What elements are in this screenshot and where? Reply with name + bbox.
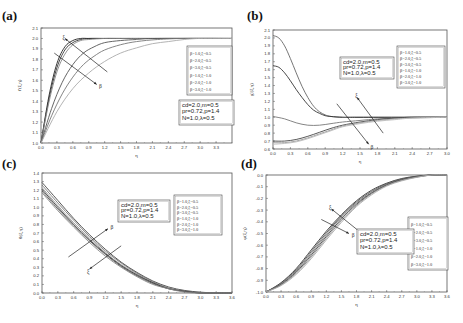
y-tick-label: 1.6	[32, 78, 38, 83]
arrow-label: ξ	[329, 204, 332, 211]
y-tick-label: 1.8	[264, 51, 270, 56]
x-tick-label: 1.2	[340, 151, 346, 156]
x-axis-label: η	[359, 159, 362, 164]
y-tick-label: 0.2	[33, 273, 39, 278]
y-tick-label: 1.6	[264, 67, 270, 72]
y-tick-label: 2.1	[264, 28, 270, 33]
x-tick-label: 0.3	[287, 151, 293, 156]
x-tick-label: 2.7	[399, 294, 405, 299]
y-tick-label: 1.1	[33, 196, 39, 201]
x-tick-label: 0.3	[278, 294, 284, 299]
y-tick-label: 2.0	[264, 35, 270, 40]
x-tick-label: 2.7	[181, 145, 187, 150]
x-tick-label: 2.1	[150, 295, 156, 300]
y-tick-label: 0.4	[33, 256, 39, 261]
y-tick-label: 1.1	[32, 130, 38, 135]
y-tick-label: 1.4	[32, 99, 38, 104]
x-tick-label: 2.1	[392, 151, 398, 156]
x-tick-label: 0.6	[293, 294, 299, 299]
y-tick-label: -0.8	[256, 266, 264, 271]
x-tick-label: 0.3	[54, 145, 60, 150]
panel-label: (d)	[241, 156, 257, 171]
y-axis-label: θ(ξ,η)	[18, 227, 24, 239]
x-tick-label: 0.0	[270, 151, 276, 156]
y-tick-label: 0.6	[264, 147, 270, 152]
x-axis-label: η	[135, 153, 138, 158]
x-tick-label: 1.5	[118, 295, 124, 300]
x-tick-label: 0.9	[322, 151, 328, 156]
y-axis-label: g'(ξ,η)	[249, 83, 255, 96]
x-tick-label: 0.6	[305, 151, 311, 156]
y-tick-label: -0.3	[256, 208, 264, 213]
x-tick-label: 1.5	[357, 151, 363, 156]
y-tick-label: 0.0	[257, 173, 263, 178]
y-tick-label: 0.8	[264, 131, 270, 136]
trend-arrow	[357, 97, 383, 133]
figure: (a)0.00.30.60.91.21.51.82.12.42.73.03.31…	[0, 0, 463, 323]
y-tick-label: 1.7	[32, 67, 38, 72]
y-tick-label: 0.8	[33, 222, 39, 227]
x-tick-label: 1.8	[354, 294, 360, 299]
x-tick-label: 0.6	[71, 295, 77, 300]
parameter-text: N=1.0,λ=0.5	[182, 115, 215, 121]
arrow-label: β	[110, 224, 113, 230]
x-tick-label: 2.4	[409, 151, 415, 156]
parameter-text: cd=2.0,m=0.5	[182, 102, 219, 108]
x-tick-label: 0.9	[308, 294, 314, 299]
x-tick-label: 3.0	[414, 294, 420, 299]
y-tick-label: 1.0	[32, 141, 38, 146]
y-tick-label: 0.7	[264, 139, 270, 144]
y-tick-label: -1.0	[256, 290, 264, 295]
x-tick-label: 0.3	[55, 295, 61, 300]
y-tick-label: 0.7	[33, 231, 39, 236]
chart-panel-a: (a)0.00.30.60.91.21.51.82.12.42.73.03.31…	[2, 8, 234, 158]
x-tick-label: 0.9	[86, 145, 92, 150]
x-tick-label: 3.0	[197, 145, 203, 150]
x-tick-label: 1.5	[339, 294, 345, 299]
y-tick-label: 2.1	[32, 26, 38, 31]
y-tick-label: 1.2	[264, 99, 270, 104]
y-tick-label: -0.4	[256, 219, 264, 224]
x-tick-label: 0.0	[38, 145, 44, 150]
x-tick-label: 0.9	[87, 295, 93, 300]
y-tick-label: 1.4	[264, 83, 270, 88]
y-tick-label: 1.9	[32, 46, 38, 51]
chart-panel-c: (c)0.00.30.60.91.21.51.82.12.42.73.03.33…	[2, 156, 236, 308]
trend-arrow	[337, 104, 369, 144]
arrow-label: β	[352, 232, 355, 238]
panel-label: (a)	[2, 8, 17, 23]
y-tick-label: 1.5	[264, 75, 270, 80]
parameter-text: cd=2.0,m=0.5	[360, 231, 397, 237]
y-tick-label: 1.1	[264, 107, 270, 112]
x-tick-label: 3.6	[229, 295, 235, 300]
x-tick-label: 3.3	[213, 145, 219, 150]
x-tick-label: 3.3	[429, 294, 435, 299]
y-tick-label: 0.9	[264, 123, 270, 128]
x-tick-label: 1.8	[134, 295, 140, 300]
y-tick-label: 1.7	[264, 59, 270, 64]
y-tick-label: 0.0	[33, 291, 39, 296]
y-tick-label: 1.3	[264, 91, 270, 96]
y-tick-label: -0.7	[256, 254, 264, 259]
parameter-text: pr=0.72,p=1.4	[182, 108, 220, 114]
y-tick-label: 0.6	[33, 239, 39, 244]
x-tick-label: 0.0	[263, 294, 269, 299]
y-tick-label: -0.1	[256, 184, 264, 189]
x-tick-label: 3.3	[213, 295, 219, 300]
chart-panel-d: (d)0.00.30.60.91.21.51.82.12.42.73.03.33…	[241, 156, 451, 307]
y-tick-label: 2.0	[32, 36, 38, 41]
y-tick-label: 0.1	[33, 282, 39, 287]
x-tick-label: 1.8	[134, 145, 140, 150]
x-tick-label: 2.4	[166, 295, 172, 300]
x-tick-label: 1.8	[374, 151, 380, 156]
x-tick-label: 3.0	[444, 151, 450, 156]
x-tick-label: 2.4	[165, 145, 171, 150]
y-tick-label: 0.9	[33, 213, 39, 218]
x-tick-label: 2.4	[384, 294, 390, 299]
x-tick-label: 2.7	[182, 295, 188, 300]
y-tick-label: 1.5	[32, 88, 38, 93]
parameter-text: pr=0.72,p=1.4	[360, 237, 398, 243]
x-axis-label: η	[355, 302, 358, 307]
x-tick-label: 2.7	[427, 151, 433, 156]
y-tick-label: 1.9	[264, 43, 270, 48]
